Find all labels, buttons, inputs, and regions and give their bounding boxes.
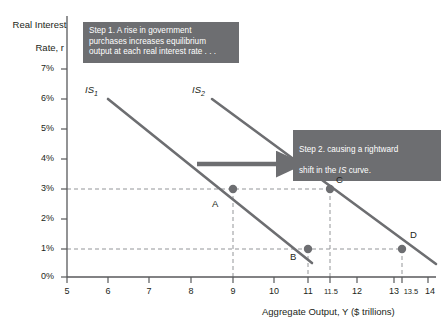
x-tick-label-6: 6 xyxy=(105,286,110,296)
y-tick-label-7: 7% xyxy=(28,63,54,73)
x-tick-label-13-5: 13.5 xyxy=(404,287,419,296)
point-label-b: B xyxy=(290,251,296,262)
callout-step-2-line2b: curve. xyxy=(346,166,371,175)
x-tick-label-11: 11 xyxy=(303,286,312,296)
point-a xyxy=(229,185,237,193)
y-tick-label-0: 0% xyxy=(28,271,54,281)
x-tick-label-9: 9 xyxy=(230,286,235,296)
is-curve-shift-chart: Real Interest Rate, r Aggregate Output, … xyxy=(0,0,443,324)
point-label-c: C xyxy=(336,174,343,185)
x-axis-ticks xyxy=(67,277,428,283)
x-tick-label-11-5: 11.5 xyxy=(324,287,338,296)
curve-label-is1-sub: 1 xyxy=(94,90,98,97)
y-axis-title: Real Interest Rate, r xyxy=(2,7,64,65)
y-tick-label-6: 6% xyxy=(28,93,54,103)
is2-curve xyxy=(212,99,436,264)
callout-step-1: Step 1. A rise in government purchases i… xyxy=(83,22,239,63)
callout-step-2-line2a: shift in the xyxy=(299,166,339,175)
callout-step-2: Step 2. causing a rightward shift in the… xyxy=(293,130,441,181)
curve-label-is1-base: IS xyxy=(85,84,94,95)
curve-label-is2-base: IS xyxy=(192,84,201,95)
y-axis-title-line2: Rate, r xyxy=(35,42,64,53)
is1-curve xyxy=(108,99,312,263)
y-tick-label-3: 3% xyxy=(28,183,54,193)
y-tick-label-4: 4% xyxy=(28,153,54,163)
callout-step-2-line1: Step 2. causing a rightward xyxy=(299,145,398,154)
x-tick-label-8: 8 xyxy=(188,286,193,296)
point-d xyxy=(398,245,406,253)
y-axis-title-line1: Real Interest xyxy=(13,19,67,30)
curve-label-is1: IS1 xyxy=(85,84,98,97)
x-tick-label-13: 13 xyxy=(389,286,399,296)
point-c xyxy=(326,185,334,193)
x-tick-label-12: 12 xyxy=(352,286,362,296)
y-tick-label-5: 5% xyxy=(28,123,54,133)
x-tick-label-14: 14 xyxy=(425,286,435,296)
y-tick-label-1: 1% xyxy=(28,243,54,253)
x-tick-label-7: 7 xyxy=(146,286,151,296)
curve-label-is2-sub: 2 xyxy=(201,90,205,97)
y-tick-label-2: 2% xyxy=(28,213,54,223)
x-tick-label-10: 10 xyxy=(269,286,279,296)
point-label-a: A xyxy=(212,198,218,209)
x-axis-title: Aggregate Output, Y ($ trillions) xyxy=(262,306,395,318)
y-axis-ticks xyxy=(61,69,67,277)
curve-label-is2: IS2 xyxy=(192,84,205,97)
point-label-d: D xyxy=(410,229,417,240)
x-tick-label-5: 5 xyxy=(64,286,69,296)
point-b xyxy=(304,245,312,253)
